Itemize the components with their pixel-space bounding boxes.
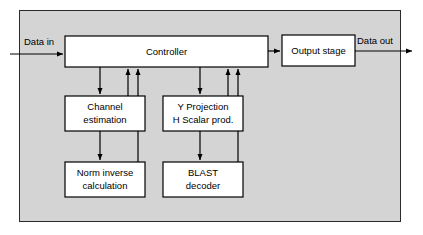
- block-output-stage-label: Output stage: [291, 45, 345, 56]
- block-controller-label: Controller: [146, 46, 187, 57]
- block-channel-estimation-label-line1: Channel: [87, 101, 122, 112]
- block-blast-decoder-label-line1: BLAST: [188, 167, 218, 178]
- block-blast-decoder-label-line2: decoder: [186, 180, 220, 191]
- block-controller[interactable]: Controller: [65, 36, 268, 67]
- diagram-canvas: Controller Output stage Channel estimati…: [0, 0, 423, 235]
- block-y-projection[interactable]: Y Projection H Scalar prod.: [163, 96, 243, 131]
- block-norm-inverse-label-line2: calculation: [83, 180, 128, 191]
- block-diagram: Controller Output stage Channel estimati…: [0, 0, 423, 235]
- block-norm-inverse[interactable]: Norm inverse calculation: [65, 162, 145, 197]
- block-output-stage[interactable]: Output stage: [282, 35, 355, 66]
- label-data-out: Data out: [357, 35, 393, 46]
- label-data-in: Data in: [24, 36, 54, 47]
- block-y-projection-label-line2: H Scalar prod.: [173, 114, 234, 125]
- block-channel-estimation[interactable]: Channel estimation: [65, 96, 145, 131]
- block-norm-inverse-label-line1: Norm inverse: [77, 167, 134, 178]
- block-channel-estimation-label-line2: estimation: [83, 114, 126, 125]
- block-y-projection-label-line1: Y Projection: [177, 101, 228, 112]
- block-blast-decoder[interactable]: BLAST decoder: [163, 162, 243, 197]
